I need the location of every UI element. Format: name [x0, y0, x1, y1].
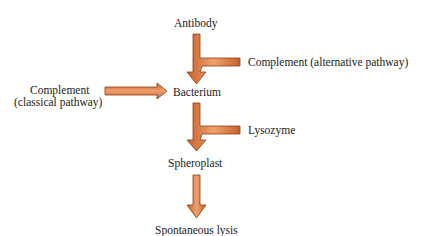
arrow-bacterium-to-spheroplast	[187, 103, 240, 151]
arrow-classical-to-bacterium	[105, 83, 167, 99]
label-lysozyme: Lysozyme	[248, 124, 295, 137]
label-alternative-pathway: Complement (alternative pathway)	[248, 56, 408, 69]
arrow-spheroplast-to-lysis	[187, 175, 206, 218]
label-classical-line2: (classical pathway)	[14, 96, 102, 109]
arrow-antibody-to-bacterium	[187, 34, 240, 84]
label-spheroplast: Spheroplast	[168, 157, 222, 170]
label-antibody: Antibody	[174, 17, 217, 30]
label-bacterium: Bacterium	[173, 86, 221, 99]
label-spontaneous-lysis: Spontaneous lysis	[155, 224, 238, 236]
arrows-layer	[0, 0, 421, 236]
